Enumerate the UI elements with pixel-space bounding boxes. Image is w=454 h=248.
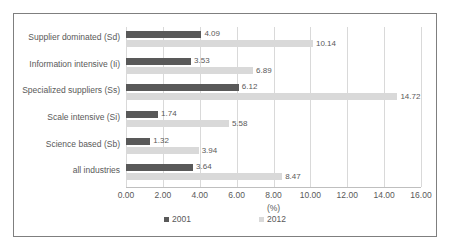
bar-2001 [126, 31, 201, 38]
bar-value-label: 6.89 [256, 66, 272, 75]
bar-value-label: 6.12 [242, 82, 258, 91]
x-axis-line [126, 187, 421, 188]
bar-row: Science based (Sb)1.323.94 [126, 134, 421, 161]
x-tick-label: 10.00 [300, 190, 321, 200]
x-tick-label: 0.00 [118, 190, 135, 200]
legend-label: 2001 [172, 214, 191, 224]
bar-2012 [126, 67, 253, 74]
x-tick-label: 6.00 [228, 190, 245, 200]
bar-value-label: 4.09 [204, 29, 220, 38]
bar-2012 [126, 93, 397, 100]
category-label: Supplier dominated (Sd) [28, 32, 120, 42]
category-label: Scale intensive (Si) [47, 112, 120, 122]
legend-label: 2012 [267, 214, 286, 224]
bar-2001 [126, 84, 239, 91]
category-label: Specialized suppliers (Ss) [22, 85, 120, 95]
x-tick-label: 8.00 [265, 190, 282, 200]
bar-2001 [126, 111, 158, 118]
bar-row: all industries3.648.47 [126, 160, 421, 187]
category-label: Science based (Sb) [46, 139, 120, 149]
bar-row: Supplier dominated (Sd)4.0910.14 [126, 27, 421, 54]
bar-2001 [126, 58, 191, 65]
legend-item-2012[interactable]: 2012 [259, 214, 286, 224]
x-tick-label: 2.00 [155, 190, 172, 200]
bar-value-label: 5.58 [232, 119, 248, 128]
bar-row: Information intensive (Ii)3.536.89 [126, 54, 421, 81]
bar-value-label: 1.32 [153, 136, 169, 145]
bar-value-label: 8.47 [285, 172, 301, 181]
bar-value-label: 10.14 [316, 39, 336, 48]
gridline [421, 27, 422, 187]
bar-value-label: 3.64 [196, 162, 212, 171]
chart-figure: Supplier dominated (Sd)4.0910.14Informat… [13, 13, 437, 237]
legend-item-2001[interactable]: 2001 [164, 214, 191, 224]
x-tick-label: 12.00 [337, 190, 358, 200]
bar-value-label: 3.94 [202, 146, 218, 155]
bar-row: Specialized suppliers (Ss)6.1214.72 [126, 80, 421, 107]
bar-2001 [126, 138, 150, 145]
x-tick-label: 16.00 [410, 190, 431, 200]
plot-area: Supplier dominated (Sd)4.0910.14Informat… [126, 27, 421, 187]
bar-value-label: 3.53 [194, 56, 210, 65]
category-label: all industries [73, 165, 120, 175]
legend-swatch-icon [164, 217, 169, 222]
bar-2012 [126, 120, 229, 127]
bar-value-label: 1.74 [161, 109, 177, 118]
bar-2012 [126, 147, 199, 154]
bar-2012 [126, 40, 313, 47]
bar-2012 [126, 173, 282, 180]
chart-legend: 20012012 [14, 212, 436, 226]
category-label: Information intensive (Ii) [29, 59, 120, 69]
bar-row: Scale intensive (Si)1.745.58 [126, 107, 421, 134]
bar-value-label: 14.72 [400, 92, 420, 101]
x-tick-label: 14.00 [373, 190, 394, 200]
x-tick-label: 4.00 [191, 190, 208, 200]
bar-2001 [126, 164, 193, 171]
legend-swatch-icon [259, 217, 264, 222]
